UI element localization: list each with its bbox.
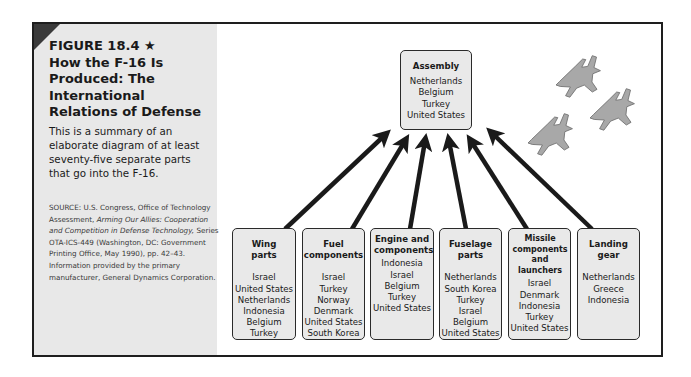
part-heading: Missile components and launchers xyxy=(509,234,571,276)
part-heading: Fuselage parts xyxy=(446,239,496,261)
part-heading: Engine and components xyxy=(374,234,430,256)
part-box-fuel: Fuel components Israel Turkey Norway Den… xyxy=(302,228,365,340)
part-box-landing-gear: Landing gear Netherlands Greece Indonesi… xyxy=(577,228,640,340)
jet-icon xyxy=(525,113,576,157)
part-heading: Landing gear xyxy=(587,239,631,261)
part-box-engine: Engine and components Indonesia Israel B… xyxy=(370,228,434,340)
part-box-fuselage: Fuselage parts Netherlands South Korea T… xyxy=(439,228,502,340)
part-countries: Israel Denmark Indonesia Turkey United S… xyxy=(509,278,570,334)
part-countries: Israel Turkey Norway Denmark United Stat… xyxy=(303,272,364,339)
part-countries: Indonesia Israel Belgium Turkey United S… xyxy=(371,258,433,314)
part-countries: Netherlands Greece Indonesia xyxy=(578,272,639,306)
part-box-wing: Wing parts Israel United States Netherla… xyxy=(232,228,296,340)
assembly-box: Assembly Netherlands Belgium Turkey Unit… xyxy=(400,50,472,130)
part-heading: Wing parts xyxy=(244,239,284,261)
part-countries: Israel United States Netherlands Indones… xyxy=(233,272,295,339)
jet-icon xyxy=(587,88,638,132)
part-countries: Netherlands South Korea Turkey Israel Be… xyxy=(440,272,501,339)
part-heading: Fuel components xyxy=(303,239,364,261)
assembly-heading: Assembly xyxy=(401,61,471,72)
part-box-missile: Missile components and launchers Israel … xyxy=(508,228,571,340)
jet-icon xyxy=(553,55,604,99)
assembly-countries: Netherlands Belgium Turkey United States xyxy=(401,76,471,121)
